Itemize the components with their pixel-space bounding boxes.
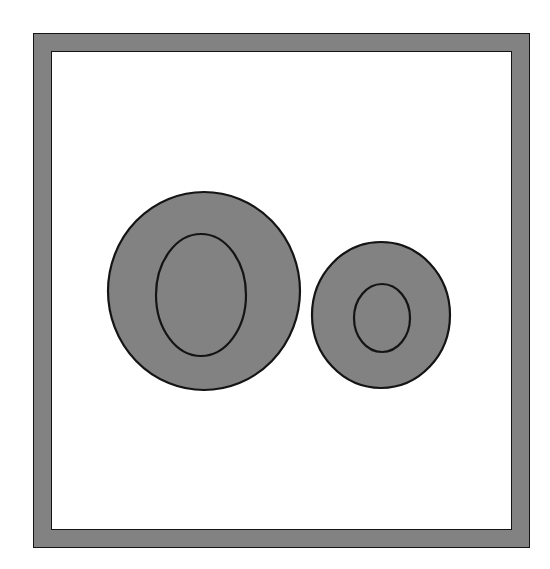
letter-flashcard: Oo [0, 0, 550, 569]
picture-frame-interior [51, 51, 512, 530]
picture-frame-border [33, 33, 530, 548]
